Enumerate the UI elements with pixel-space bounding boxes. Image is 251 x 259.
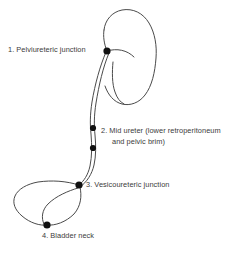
bladder-inner-fold xyxy=(42,188,78,224)
label-mid-ureter-line2: and pelvic brim) xyxy=(101,137,247,148)
label-bladder-neck: 4. Bladder neck xyxy=(42,231,94,242)
landmark-dot-1 xyxy=(103,47,110,54)
ureter-wall-lateral xyxy=(80,53,109,187)
kidney-outline xyxy=(104,10,156,105)
ureter-anatomy-diagram: 1. Pelviureteric junction 2. Mid ureter … xyxy=(0,0,251,259)
ureter-wall-medial xyxy=(79,52,106,185)
kidney-hilum-lower-lip xyxy=(112,62,124,104)
landmark-dot-2b xyxy=(90,145,96,151)
label-pelviureteric-junction: 1. Pelviureteric junction xyxy=(8,45,86,56)
renal-pelvis xyxy=(107,50,134,57)
landmark-dot-2a xyxy=(90,125,96,131)
label-mid-ureter: 2. Mid ureter (lower retroperitoneum and… xyxy=(101,126,247,147)
landmark-dot-4 xyxy=(43,221,50,228)
label-vesicoureteric-junction: 3. Vesicoureteric junction xyxy=(86,180,169,191)
landmark-dot-3 xyxy=(75,181,82,188)
label-mid-ureter-line1: 2. Mid ureter (lower retroperitoneum xyxy=(101,126,221,135)
